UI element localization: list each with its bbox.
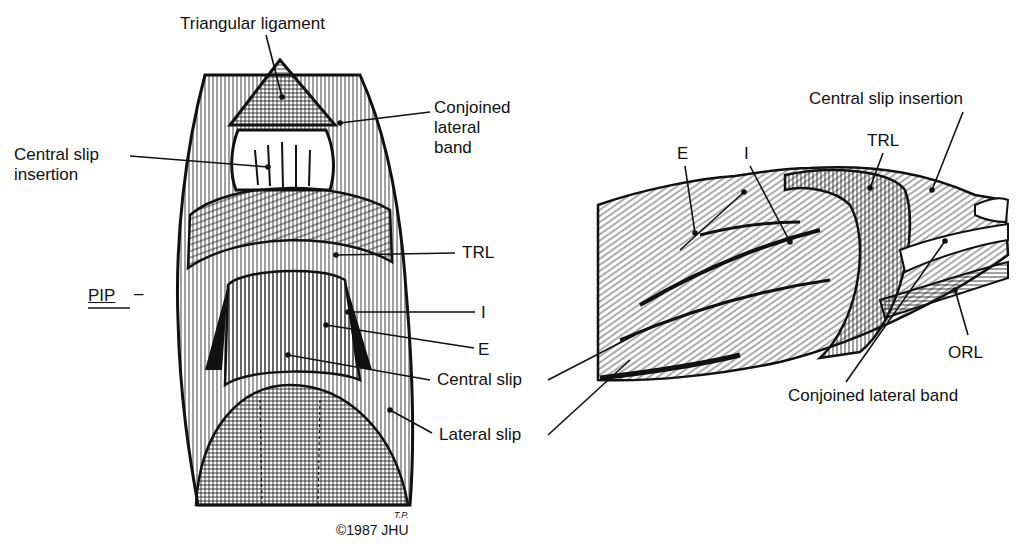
label-conjoined-lateral-band-dorsal: Conjoined lateral band: [434, 98, 511, 158]
label-pip-dash: –: [134, 284, 143, 304]
copyright-notice: ©1987 JHU: [336, 522, 409, 538]
label-i-dorsal: I: [481, 303, 486, 323]
lateral-view-drawing: [598, 167, 1008, 380]
dorsal-view-drawing: [177, 60, 412, 505]
label-e-lateral: E: [677, 144, 688, 164]
label-i-lateral: I: [744, 144, 749, 164]
illustration-art: [0, 0, 1022, 553]
label-pip: PIP: [88, 286, 115, 306]
label-e-dorsal: E: [478, 340, 489, 360]
label-trl-lateral: TRL: [867, 131, 899, 151]
anatomy-figure: Triangular ligament Conjoined lateral ba…: [0, 0, 1022, 553]
label-central-slip-insertion-lateral: Central slip insertion: [809, 89, 963, 109]
label-orl: ORL: [948, 343, 983, 363]
label-lateral-slip: Lateral slip: [439, 425, 521, 445]
label-trl-dorsal: TRL: [462, 243, 494, 263]
label-triangular-ligament: Triangular ligament: [180, 14, 325, 34]
artist-signature: T.P.: [394, 510, 409, 520]
label-conjoined-lateral-band-lateral: Conjoined lateral band: [788, 386, 958, 406]
label-central-slip: Central slip: [437, 370, 522, 390]
label-central-slip-insertion-dorsal: Central slip insertion: [14, 145, 99, 185]
